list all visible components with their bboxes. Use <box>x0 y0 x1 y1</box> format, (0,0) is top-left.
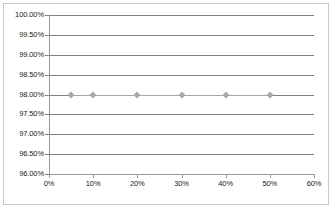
y-axis-tick-label: 96.00% <box>19 170 44 178</box>
data-point-marker[interactable] <box>266 91 273 98</box>
y-axis-tick-label: 99.00% <box>19 51 44 59</box>
x-axis-tick-label: 50% <box>262 180 277 188</box>
data-point-marker[interactable] <box>134 91 141 98</box>
x-axis-tick <box>137 174 138 178</box>
gridline <box>49 15 314 16</box>
x-axis-tick <box>226 174 227 178</box>
y-axis-tick-label: 98.50% <box>19 71 44 79</box>
x-axis-tick <box>49 174 50 178</box>
y-axis-tick-label: 100.00% <box>15 11 44 19</box>
data-point-marker[interactable] <box>90 91 97 98</box>
chart-canvas: 100.00%99.50%99.00%98.50%98.00%97.50%97.… <box>0 0 333 209</box>
y-axis-tick-label: 98.00% <box>19 91 44 99</box>
y-axis-line <box>49 15 50 175</box>
x-axis-tick <box>93 174 94 178</box>
y-axis-tick-labels: 100.00%99.50%99.00%98.50%98.00%97.50%97.… <box>0 0 44 209</box>
y-axis-tick-label: 97.00% <box>19 130 44 138</box>
x-axis-tick <box>270 174 271 178</box>
y-axis-tick-label: 99.50% <box>19 31 44 39</box>
data-point-marker[interactable] <box>68 91 75 98</box>
gridline <box>49 55 314 56</box>
x-axis-tick-label: 60% <box>307 180 322 188</box>
data-point-marker[interactable] <box>178 91 185 98</box>
gridline <box>49 154 314 155</box>
x-axis-tick <box>314 174 315 178</box>
y-axis-tick-label: 97.50% <box>19 110 44 118</box>
x-axis-tick-label: 0% <box>44 180 55 188</box>
y-axis-tick-label: 96.50% <box>19 150 44 158</box>
x-axis-tick-label: 10% <box>86 180 101 188</box>
x-axis-tick-label: 40% <box>218 180 233 188</box>
gridline <box>49 114 314 115</box>
plot-area <box>49 15 314 174</box>
gridline <box>49 75 314 76</box>
series-line <box>71 95 270 96</box>
x-axis-tick <box>182 174 183 178</box>
data-point-marker[interactable] <box>222 91 229 98</box>
x-axis-tick-label: 30% <box>174 180 189 188</box>
gridline <box>49 35 314 36</box>
gridline <box>49 134 314 135</box>
x-axis-tick-label: 20% <box>130 180 145 188</box>
